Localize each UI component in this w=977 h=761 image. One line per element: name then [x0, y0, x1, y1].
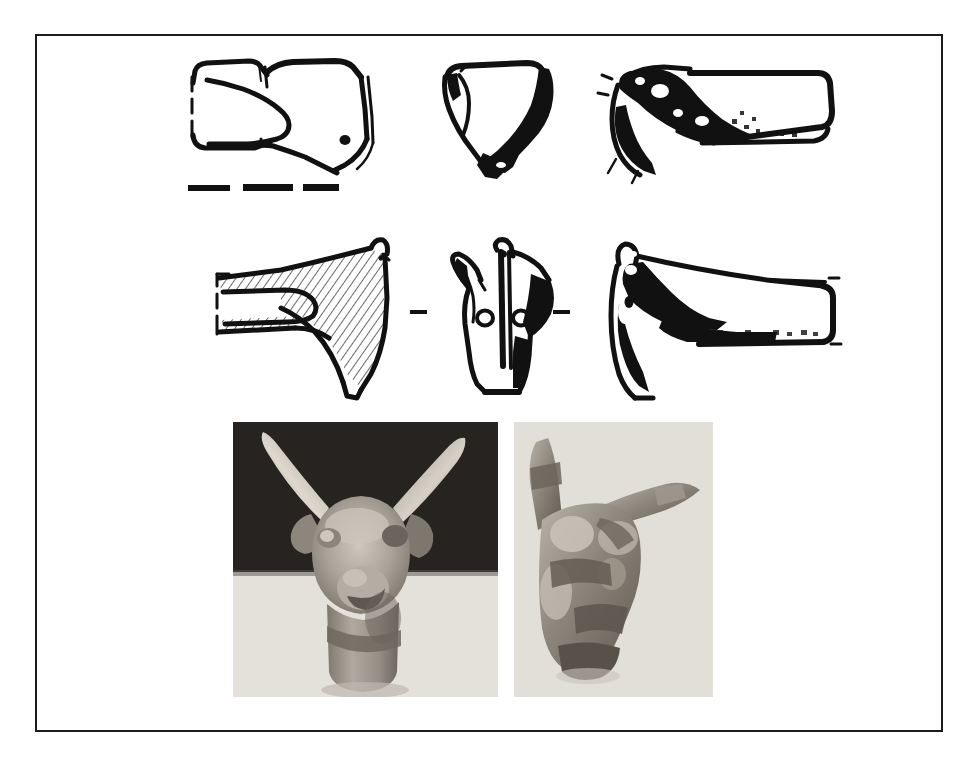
scale-bar-segment: [243, 184, 293, 191]
scale-bar: [188, 184, 338, 192]
drawing-bottom-middle: [435, 226, 575, 404]
figure-root: Archaeological plate: animal-head (bovid…: [0, 0, 977, 761]
rivet-hole-dot: [625, 296, 634, 308]
photo-front-view: [233, 422, 498, 697]
rivet-hole-dot: [340, 135, 351, 145]
drawing-top-right: [582, 47, 862, 187]
drawing-top-left: [185, 47, 425, 187]
scale-bar-segment: [188, 185, 230, 191]
plate-inner: Archaeological plate: animal-head (bovid…: [37, 36, 941, 730]
shading-lower-jaw: [615, 105, 656, 175]
centre-dash-right: [553, 310, 570, 314]
shading-right-flank: [523, 274, 554, 338]
centre-dash-left: [410, 310, 427, 314]
drawing-bottom-right: [567, 226, 857, 404]
drawing-bottom-left: [185, 228, 445, 403]
eye-highlight: [651, 84, 669, 98]
photo-oblique-view: [514, 422, 713, 697]
plate-frame: Archaeological plate: animal-head (bovid…: [35, 34, 943, 732]
shading-right: [487, 67, 554, 173]
rivet-hole-dot: [625, 141, 635, 150]
drawing-top-middle: [435, 47, 585, 187]
scale-bar-segment: [303, 184, 339, 191]
